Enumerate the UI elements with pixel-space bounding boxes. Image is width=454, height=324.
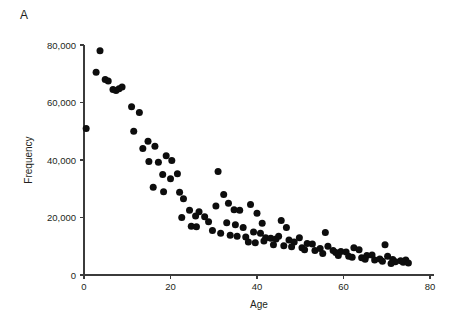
data-points-group bbox=[83, 47, 412, 267]
data-point bbox=[283, 224, 290, 231]
data-point bbox=[388, 260, 395, 267]
data-point bbox=[349, 254, 356, 261]
data-point bbox=[151, 143, 158, 150]
data-point bbox=[322, 229, 329, 236]
data-point bbox=[250, 228, 257, 235]
data-point bbox=[220, 191, 227, 198]
data-point bbox=[139, 145, 146, 152]
data-point bbox=[382, 241, 389, 248]
data-point bbox=[176, 189, 183, 196]
data-point bbox=[180, 195, 187, 202]
data-point bbox=[128, 103, 135, 110]
axes-group bbox=[84, 45, 434, 275]
data-point bbox=[145, 158, 152, 165]
x-axis-title: Age bbox=[250, 299, 268, 310]
y-tick-label: 0 bbox=[71, 270, 76, 281]
data-point bbox=[252, 239, 259, 246]
data-point bbox=[93, 69, 100, 76]
data-point bbox=[193, 223, 200, 230]
data-point bbox=[270, 241, 277, 248]
data-point bbox=[160, 188, 167, 195]
data-point bbox=[159, 171, 166, 178]
data-point bbox=[178, 214, 185, 221]
data-point bbox=[119, 83, 126, 90]
x-tick-label: 40 bbox=[252, 281, 263, 292]
data-point bbox=[309, 240, 316, 247]
data-point bbox=[209, 227, 216, 234]
data-point bbox=[223, 219, 230, 226]
data-point bbox=[247, 201, 254, 208]
data-point bbox=[254, 210, 261, 217]
data-point bbox=[232, 221, 239, 228]
x-tick-label: 0 bbox=[81, 281, 86, 292]
data-point bbox=[215, 168, 222, 175]
data-point bbox=[168, 157, 175, 164]
data-point bbox=[136, 109, 143, 116]
data-point bbox=[405, 259, 412, 266]
y-tick-label: 40,000 bbox=[47, 155, 76, 166]
data-point bbox=[240, 224, 247, 231]
data-point bbox=[205, 218, 212, 225]
data-point bbox=[130, 128, 137, 135]
data-point bbox=[275, 233, 282, 240]
scatter-plot: 020,00040,00060,00080,000 020406080 Age … bbox=[0, 0, 454, 324]
x-tick-label: 20 bbox=[165, 281, 176, 292]
data-point bbox=[278, 217, 285, 224]
data-point bbox=[245, 238, 252, 245]
y-axis-title: Frequency bbox=[23, 136, 34, 183]
data-point bbox=[319, 250, 326, 257]
data-point bbox=[335, 252, 342, 259]
x-tick-label: 60 bbox=[338, 281, 349, 292]
data-point bbox=[227, 232, 234, 239]
data-point bbox=[145, 138, 152, 145]
data-point bbox=[150, 184, 157, 191]
y-axis-ticks: 020,00040,00060,00080,000 bbox=[47, 40, 84, 281]
data-point bbox=[97, 47, 104, 54]
data-point bbox=[362, 256, 369, 263]
data-point bbox=[301, 246, 308, 253]
data-point bbox=[288, 243, 295, 250]
x-tick-label: 80 bbox=[425, 281, 436, 292]
data-point bbox=[217, 230, 224, 237]
y-tick-label: 20,000 bbox=[47, 212, 76, 223]
y-tick-label: 60,000 bbox=[47, 97, 76, 108]
data-point bbox=[260, 238, 267, 245]
x-axis-ticks: 020406080 bbox=[81, 275, 435, 292]
data-point bbox=[167, 175, 174, 182]
data-point bbox=[155, 159, 162, 166]
data-point bbox=[296, 234, 303, 241]
data-point bbox=[236, 207, 243, 214]
data-point bbox=[174, 170, 181, 177]
data-point bbox=[379, 258, 386, 265]
data-point bbox=[280, 242, 287, 249]
data-point bbox=[186, 207, 193, 214]
figure-panel: A 020,00040,00060,00080,000 020406080 Ag… bbox=[0, 0, 454, 324]
data-point bbox=[105, 77, 112, 84]
data-point bbox=[356, 246, 363, 253]
data-point bbox=[163, 152, 170, 159]
data-point bbox=[225, 200, 232, 207]
data-point bbox=[83, 125, 90, 132]
data-point bbox=[234, 233, 241, 240]
data-point bbox=[212, 203, 219, 210]
data-point bbox=[259, 220, 266, 227]
y-tick-label: 80,000 bbox=[47, 40, 76, 51]
data-point bbox=[196, 208, 203, 215]
